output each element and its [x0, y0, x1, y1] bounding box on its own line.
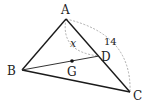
label-b: B: [7, 64, 16, 78]
label-x-length-ad: x: [70, 37, 77, 50]
label-d: D: [101, 50, 111, 64]
label-14-length-ac: 14: [104, 36, 117, 47]
label-a: A: [60, 3, 70, 17]
point-g-dot: [70, 59, 74, 63]
segment-ab: [22, 19, 66, 70]
triangle-diagram: A B C D G x 14: [0, 0, 148, 108]
label-g: G: [67, 65, 77, 79]
label-c: C: [133, 89, 142, 103]
segment-bd: [22, 56, 99, 70]
